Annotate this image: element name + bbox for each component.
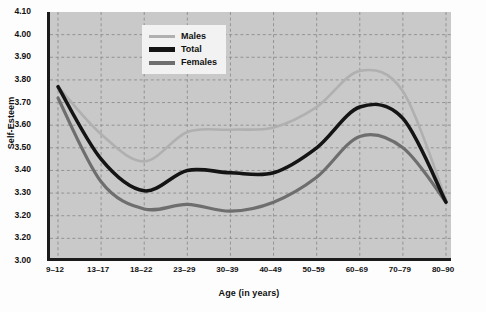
- x-tick-label: 30–39: [216, 265, 238, 274]
- y-tick-label: 3.00: [0, 255, 31, 265]
- series-line-total: [58, 87, 446, 202]
- chart-legend: Males Total Females: [142, 25, 226, 74]
- legend-item-females: Females: [149, 56, 217, 69]
- y-tick-label: 3.60: [0, 119, 31, 129]
- y-tick-label: 3.90: [0, 51, 31, 61]
- y-tick-label: 3.50: [0, 142, 31, 152]
- x-axis-tick-labels: 9–1213–1718–2223–2930–3940–4950–5960–697…: [47, 265, 451, 281]
- plot-area: [47, 12, 451, 261]
- plot-svg: [50, 12, 451, 261]
- legend-item-males: Males: [149, 30, 217, 43]
- x-tick-label: 18–22: [130, 265, 152, 274]
- series-line-females: [58, 98, 446, 211]
- x-tick-label: 80–90: [432, 265, 454, 274]
- legend-swatch-females: [149, 61, 175, 65]
- x-tick-label: 70–79: [389, 265, 411, 274]
- y-tick-label: 4.00: [0, 29, 31, 39]
- x-tick-label: 23–29: [173, 265, 195, 274]
- x-tick-label: 13–17: [87, 265, 109, 274]
- legend-label-total: Total: [181, 43, 202, 56]
- y-tick-label: 3.20: [0, 232, 31, 242]
- y-tick-label: 3.80: [0, 74, 31, 84]
- legend-swatch-males: [149, 35, 175, 38]
- x-tick-label: 9–12: [46, 265, 64, 274]
- self-esteem-age-line-chart: Self-Esteem 4.104.003.903.803.703.603.50…: [0, 0, 486, 312]
- legend-item-total: Total: [149, 43, 217, 56]
- y-tick-label: 4.10: [0, 6, 31, 16]
- series-line-males: [58, 70, 446, 200]
- y-tick-label: 3.70: [0, 97, 31, 107]
- x-tick-label: 60–69: [346, 265, 368, 274]
- legend-swatch-total: [149, 47, 175, 52]
- legend-label-males: Males: [181, 30, 206, 43]
- legend-label-females: Females: [181, 56, 217, 69]
- x-axis-title: Age (in years): [47, 288, 451, 298]
- y-tick-label: 3.30: [0, 187, 31, 197]
- y-tick-label: 3.20: [0, 210, 31, 220]
- x-tick-label: 40–49: [259, 265, 281, 274]
- x-tick-label: 50–59: [303, 265, 325, 274]
- y-tick-label: 3.40: [0, 164, 31, 174]
